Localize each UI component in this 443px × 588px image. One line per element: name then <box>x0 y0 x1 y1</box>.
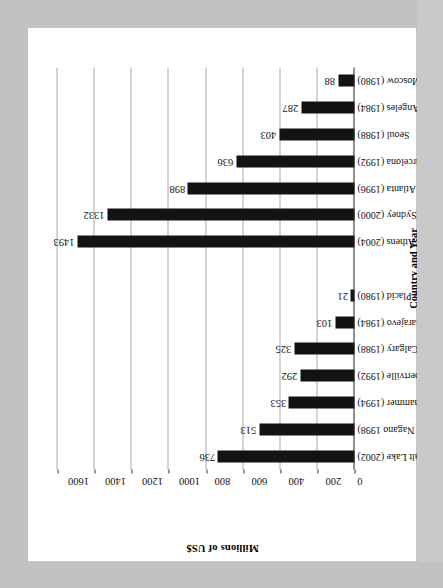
figure-region: Millions of US$ 020040060080010001200140… <box>26 26 417 562</box>
bar-value-label: 88 <box>324 75 335 86</box>
value-axis-tick-label: 200 <box>325 475 341 486</box>
category-axis-title: Country and Year <box>407 67 417 469</box>
bar-slot: 513 <box>57 415 354 442</box>
value-axis-tick-label: 1600 <box>68 475 89 486</box>
value-axis-tick-label: 400 <box>288 475 304 486</box>
bar[interactable]: 636 <box>236 155 354 167</box>
axis-tick <box>168 469 169 473</box>
axis-tick <box>354 469 355 473</box>
category-label: Seoul (1988) <box>357 129 409 139</box>
bar[interactable]: 736 <box>217 450 354 462</box>
value-axis-tick-label: 0 <box>357 475 362 486</box>
bar[interactable]: 898 <box>187 182 354 194</box>
bar[interactable]: 103 <box>335 316 354 328</box>
bar[interactable]: 287 <box>301 101 354 113</box>
bar-slot: 898 <box>57 174 354 201</box>
bar-slot: 292 <box>57 362 354 389</box>
axis-tick <box>280 469 281 473</box>
bar[interactable]: 292 <box>300 369 354 381</box>
axis-tick <box>243 469 244 473</box>
bar[interactable]: 353 <box>288 396 354 408</box>
bar-value-label: 103 <box>316 316 332 327</box>
bar-value-label: 1493 <box>53 236 74 247</box>
bar[interactable]: 403 <box>279 128 354 140</box>
bar-slot: 636 <box>57 147 354 174</box>
bar-slot: 88 <box>57 67 354 94</box>
axis-tick <box>94 469 95 473</box>
bar-value-label: 736 <box>199 450 215 461</box>
axis-tick <box>131 469 132 473</box>
axis-tick <box>206 469 207 473</box>
bar-value-label: 403 <box>260 129 276 140</box>
bar-value-label: 353 <box>270 397 286 408</box>
axis-tick <box>57 469 58 473</box>
bar-slot: 353 <box>57 389 354 416</box>
bar-slot-empty <box>57 255 354 282</box>
bar-value-label: 287 <box>282 102 298 113</box>
bar-slot: 403 <box>57 121 354 148</box>
bar-value-label: 898 <box>169 182 185 193</box>
value-axis-title: Millions of US$ <box>185 542 257 553</box>
bar[interactable]: 1493 <box>77 235 354 247</box>
bar-value-label: 292 <box>281 370 297 381</box>
bar-value-label: 636 <box>217 156 233 167</box>
bar[interactable]: 325 <box>294 342 354 354</box>
bar-slot: 325 <box>57 335 354 362</box>
bar[interactable]: 1332 <box>107 208 354 220</box>
figure-caption: Figure 4.1 Olympic broadcast rights 1980… <box>420 584 430 588</box>
page-margin-left <box>0 0 26 588</box>
value-axis-tick-label: 600 <box>251 475 267 486</box>
bar-slot: 1332 <box>57 201 354 228</box>
value-axis-tick-label: 1200 <box>142 475 163 486</box>
axis-tick <box>317 469 318 473</box>
plot-area: 02004006008001000120014001600 7365133532… <box>57 67 354 469</box>
value-axis-tick-label: 1000 <box>179 475 200 486</box>
page-margin-top <box>0 0 443 26</box>
bar-slot: 103 <box>57 308 354 335</box>
bar-value-label: 1332 <box>83 209 104 220</box>
category-label: Nagano 1998) <box>357 424 414 434</box>
page-margin-bottom <box>0 562 443 588</box>
chart-frame: Millions of US$ 020040060080010001200140… <box>26 26 417 562</box>
bar[interactable]: 88 <box>338 74 354 86</box>
page-margin-right <box>417 0 443 588</box>
bar-slot: 1493 <box>57 228 354 255</box>
bar-value-label: 513 <box>240 424 256 435</box>
rotated-chart-canvas: Millions of US$ 020040060080010001200140… <box>26 26 417 562</box>
bar-value-label: 325 <box>275 343 291 354</box>
bar[interactable]: 513 <box>259 423 354 435</box>
bar-slot: 287 <box>57 94 354 121</box>
bar-slot: 21 <box>57 281 354 308</box>
category-label: Athens (2004) <box>357 236 415 246</box>
value-axis-tick-label: 1400 <box>105 475 126 486</box>
bar-value-label: 21 <box>337 290 348 301</box>
value-axis-tick-label: 800 <box>213 475 229 486</box>
bar-series: 7365133532923251032114931332898636403287… <box>57 67 354 469</box>
bar-slot: 736 <box>57 442 354 469</box>
